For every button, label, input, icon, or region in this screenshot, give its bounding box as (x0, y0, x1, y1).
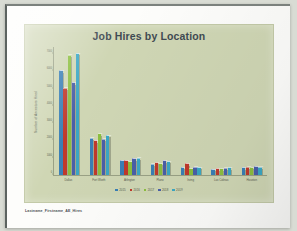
bar[interactable] (224, 168, 227, 175)
bar[interactable] (68, 55, 71, 175)
bar[interactable] (132, 158, 135, 175)
bar[interactable] (102, 139, 105, 175)
bar[interactable] (63, 88, 66, 175)
bar-group[interactable] (176, 47, 206, 175)
bar[interactable] (258, 167, 261, 175)
legend-label: 2015 (119, 188, 125, 192)
bar-groups (54, 47, 267, 175)
bar[interactable] (167, 161, 170, 175)
bar[interactable] (137, 158, 140, 175)
bar[interactable] (220, 168, 223, 175)
legend-swatch (172, 189, 175, 192)
bar-group[interactable] (54, 47, 84, 175)
bar[interactable] (211, 169, 214, 175)
bar[interactable] (163, 160, 166, 175)
bar-group[interactable] (237, 47, 267, 175)
y-axis-title-text: Number of Ancestors Hired (34, 90, 38, 132)
bar[interactable] (228, 167, 231, 175)
bar[interactable] (94, 140, 97, 175)
legend-item[interactable]: 2019 (172, 188, 182, 192)
y-axis-title: Number of Ancestors Hired (31, 47, 41, 176)
legend-item[interactable]: 2018 (158, 188, 168, 192)
bar[interactable] (72, 82, 75, 175)
chart-object[interactable]: Job Hires by Location Number of Ancestor… (24, 24, 274, 203)
x-axis-category-label: Las Colinas (206, 178, 237, 182)
footer-filename: Lastname_Firstname_AE_Hires (25, 209, 82, 213)
bar[interactable] (90, 138, 93, 175)
legend-swatch (158, 189, 161, 192)
legend-label: 2017 (148, 188, 154, 192)
bar[interactable] (159, 163, 162, 175)
bar[interactable] (59, 70, 62, 175)
legend-item[interactable]: 2015 (115, 188, 125, 192)
bar[interactable] (106, 135, 109, 175)
bar[interactable] (98, 133, 101, 175)
legend-item[interactable]: 2016 (130, 188, 140, 192)
bar[interactable] (242, 167, 245, 175)
screenshot-stage: Job Hires by Location Number of Ancestor… (0, 0, 297, 231)
bar[interactable] (250, 167, 253, 175)
bar-group[interactable] (84, 47, 114, 175)
bar-group[interactable] (145, 47, 175, 175)
legend-label: 2019 (176, 188, 182, 192)
chart-legend: 20152016201720182019 (25, 188, 273, 192)
x-axis-category-label: Houston (236, 178, 267, 182)
document-page: Job Hires by Location Number of Ancestor… (5, 4, 290, 228)
bar[interactable] (197, 167, 200, 175)
legend-swatch (144, 189, 147, 192)
x-axis-category-label: Arlington (114, 178, 145, 182)
chart-title: Job Hires by Location (25, 30, 273, 42)
x-axis-category-labels: DallasFort WorthArlingtonPlanoIrvingLas … (53, 178, 267, 182)
bar-group[interactable] (115, 47, 145, 175)
bar[interactable] (181, 167, 184, 175)
legend-label: 2018 (162, 188, 168, 192)
bar-group[interactable] (206, 47, 236, 175)
legend-swatch (130, 189, 133, 192)
legend-label: 2016 (133, 188, 139, 192)
x-axis-category-label: Fort Worth (84, 178, 115, 182)
legend-item[interactable]: 2017 (144, 188, 154, 192)
bar[interactable] (76, 53, 79, 175)
bar[interactable] (128, 161, 131, 175)
plot-area: 01000200030004000500060007000 (53, 47, 267, 176)
x-axis-category-label: Dallas (53, 178, 84, 182)
bar[interactable] (189, 168, 192, 175)
x-axis-category-label: Plano (145, 178, 176, 182)
bar[interactable] (120, 160, 123, 175)
legend-swatch (115, 189, 118, 192)
x-axis-category-label: Irving (175, 178, 206, 182)
bar[interactable] (151, 164, 154, 175)
